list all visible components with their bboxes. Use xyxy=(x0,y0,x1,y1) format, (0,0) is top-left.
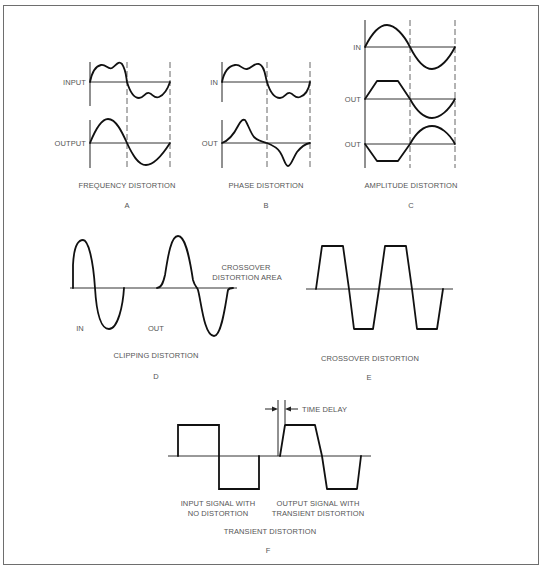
panel-title: TRANSIENT DISTORTION xyxy=(224,527,316,536)
arrowhead-left-icon xyxy=(285,407,291,412)
panel-title: CLIPPING DISTORTION xyxy=(114,351,199,360)
crossover-annotation-line2: DISTORTION AREA xyxy=(212,273,282,282)
input-waveform xyxy=(73,240,124,329)
time-delay-label: TIME DELAY xyxy=(302,405,347,414)
panel-title: PHASE DISTORTION xyxy=(228,181,303,190)
panel-clipping-distortion: IN OUT CROSSOVER DISTORTION AREA CLIPPIN… xyxy=(70,236,282,381)
output-caption-line2: TRANSIENT DISTORTION xyxy=(272,509,364,518)
output-waveform xyxy=(157,236,233,336)
output1-label: OUT xyxy=(345,95,361,104)
panel-letter: D xyxy=(153,372,159,381)
output-waveform xyxy=(90,119,170,165)
output-waveform xyxy=(316,246,443,329)
panel-title: CROSSOVER DISTORTION xyxy=(321,354,419,363)
panel-letter: F xyxy=(266,546,271,555)
panel-amplitude-distortion: IN OUT OUT AMPLITUDE DISTORTION C xyxy=(345,20,458,210)
input-label: IN xyxy=(210,78,218,87)
distortion-diagram: INPUT OUTPUT FREQUENCY DISTORTION A IN O… xyxy=(0,0,543,572)
arrowhead-right-icon xyxy=(272,407,278,412)
input-caption-line1: INPUT SIGNAL WITH xyxy=(181,499,256,508)
panel-letter: A xyxy=(124,201,129,210)
output-label: OUTPUT xyxy=(55,139,87,148)
panel-frequency-distortion: INPUT OUTPUT FREQUENCY DISTORTION A xyxy=(55,62,176,210)
input-label: IN xyxy=(76,324,84,333)
panel-letter: C xyxy=(408,201,414,210)
panel-transient-distortion: TIME DELAY INPUT SIGNAL WITH NO DISTORTI… xyxy=(168,400,371,555)
panel-title: AMPLITUDE DISTORTION xyxy=(365,181,458,190)
output-label: OUT xyxy=(202,139,218,148)
panel-letter: E xyxy=(366,373,371,382)
input-waveform xyxy=(222,64,310,98)
crossover-annotation-line1: CROSSOVER xyxy=(222,263,271,272)
panel-phase-distortion: IN OUT PHASE DISTORTION B xyxy=(202,62,310,210)
input-waveform xyxy=(178,425,259,489)
input-waveform xyxy=(90,63,170,98)
output2-label: OUT xyxy=(345,140,361,149)
output-label: OUT xyxy=(148,324,164,333)
output-caption-line1: OUTPUT SIGNAL WITH xyxy=(276,499,359,508)
panel-letter: B xyxy=(263,201,268,210)
input-label: INPUT xyxy=(63,78,86,87)
panel-title: FREQUENCY DISTORTION xyxy=(78,181,175,190)
output-waveform xyxy=(280,425,361,489)
input-label: IN xyxy=(353,43,361,52)
panel-crossover-distortion: CROSSOVER DISTORTION E xyxy=(306,246,453,382)
input-caption-line2: NO DISTORTION xyxy=(188,509,249,518)
